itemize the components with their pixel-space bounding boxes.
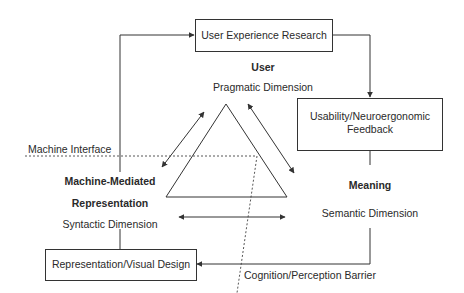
representation-visual-design-box: Representation/Visual Design	[45, 249, 197, 281]
flow-arrow-research-to-usability	[332, 35, 370, 97]
user-experience-research-box: User Experience Research	[195, 19, 333, 52]
cognition-barrier-label: Cognition/Perception Barrier	[244, 270, 376, 281]
usability-feedback-label-line1: Usability/Neuroergonomic	[310, 110, 430, 123]
representation-node-subtitle: Syntactic Dimension	[62, 219, 157, 230]
double-arrow-user-representation	[162, 112, 204, 167]
double-arrow-user-meaning	[248, 104, 294, 173]
semiotic-triangle	[166, 104, 287, 197]
usability-feedback-label-line2: Feedback	[347, 123, 393, 136]
meaning-node-subtitle: Semantic Dimension	[320, 208, 420, 219]
flow-arrow-meaning-to-design	[197, 228, 370, 264]
user-node-title: User	[251, 62, 274, 73]
usability-feedback-box: Usability/Neuroergonomic Feedback	[297, 98, 443, 151]
user-experience-research-label: User Experience Research	[201, 29, 326, 42]
representation-visual-design-label: Representation/Visual Design	[52, 258, 190, 271]
representation-node-title-line2: Representation	[72, 198, 148, 209]
user-node-subtitle: Pragmatic Dimension	[213, 82, 313, 93]
flow-arrow-representation-to-research	[120, 35, 194, 172]
meaning-node-title: Meaning	[349, 180, 392, 191]
representation-node-title-line1: Machine-Mediated	[64, 176, 155, 187]
machine-interface-label: Machine Interface	[28, 144, 111, 155]
